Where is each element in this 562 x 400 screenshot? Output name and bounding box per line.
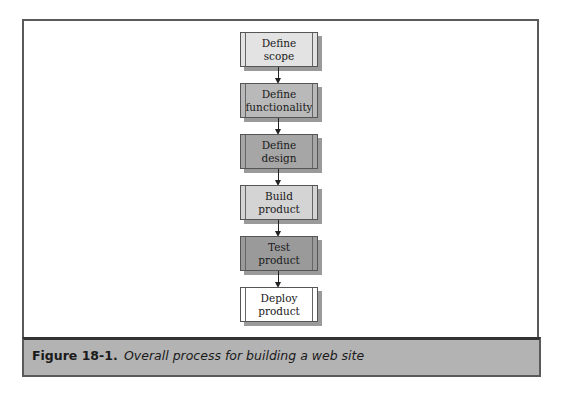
node-label: Define functionality: [239, 88, 318, 114]
arrow-4-5: [278, 220, 279, 232]
node-define-functionality: Define functionality: [240, 83, 318, 118]
node-test-product: Test product: [240, 236, 318, 271]
node-build-product: Build product: [240, 185, 318, 220]
node-label: Define design: [241, 139, 317, 165]
node-label: Define scope: [241, 37, 317, 63]
node-define-scope: Define scope: [240, 32, 318, 67]
arrow-2-3: [278, 118, 279, 130]
figure-caption: Figure 18-1. Overall process for buildin…: [22, 337, 541, 377]
arrow-1-2: [278, 67, 279, 79]
node-define-design: Define design: [240, 134, 318, 169]
caption-label: Figure 18-1.: [32, 348, 118, 363]
arrow-3-4: [278, 169, 279, 181]
caption-text: Overall process for building a web site: [124, 348, 364, 363]
node-label: Build product: [241, 190, 317, 216]
node-label: Test product: [241, 241, 317, 267]
arrow-5-6: [278, 271, 279, 283]
node-deploy-product: Deploy product: [240, 287, 318, 322]
node-label: Deploy product: [241, 292, 317, 318]
